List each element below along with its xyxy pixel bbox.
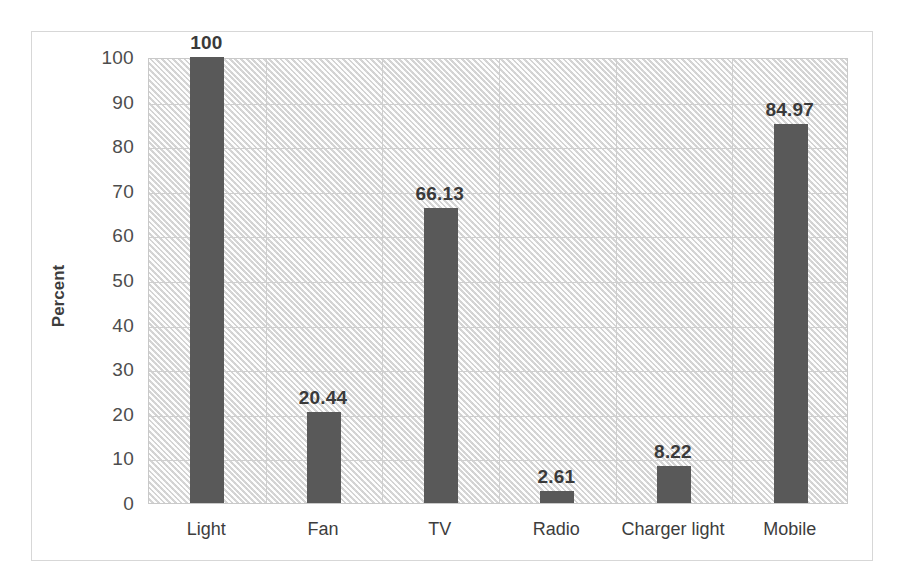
bar-value-label: 2.61 bbox=[537, 466, 575, 488]
y-axis-tick-label: 80 bbox=[74, 136, 134, 158]
horizontal-gridline bbox=[149, 237, 847, 238]
vertical-gridline bbox=[616, 59, 617, 503]
y-axis-tick-label: 40 bbox=[74, 315, 134, 337]
x-axis-tick-label: Mobile bbox=[763, 519, 816, 540]
chart-figure: Percent 0102030405060708090100 LightFanT… bbox=[31, 31, 873, 561]
y-axis-tick-label: 10 bbox=[74, 448, 134, 470]
x-axis-tick-label: Light bbox=[187, 519, 226, 540]
bar-value-label: 20.44 bbox=[299, 387, 348, 409]
horizontal-gridline bbox=[149, 193, 847, 194]
y-axis-tick-label: 70 bbox=[74, 181, 134, 203]
bar bbox=[190, 57, 224, 503]
y-axis-tick-label: 100 bbox=[74, 47, 134, 69]
y-axis-tick-label: 60 bbox=[74, 225, 134, 247]
y-axis-tick-label: 30 bbox=[74, 359, 134, 381]
bar bbox=[774, 124, 808, 503]
x-axis-tick-label: Charger light bbox=[621, 519, 724, 540]
y-axis-title: Percent bbox=[49, 236, 69, 356]
bar bbox=[540, 491, 574, 503]
horizontal-gridline bbox=[149, 371, 847, 372]
bar bbox=[307, 412, 341, 503]
horizontal-gridline bbox=[149, 104, 847, 105]
bar bbox=[657, 466, 691, 503]
x-axis-tick-label: TV bbox=[428, 519, 451, 540]
horizontal-gridline bbox=[149, 460, 847, 461]
y-axis-tick-label: 90 bbox=[74, 92, 134, 114]
horizontal-gridline bbox=[149, 282, 847, 283]
horizontal-gridline bbox=[149, 148, 847, 149]
bar-value-label: 100 bbox=[190, 32, 222, 54]
horizontal-gridline bbox=[149, 327, 847, 328]
y-axis-tick-label: 20 bbox=[74, 404, 134, 426]
bar-value-label: 66.13 bbox=[415, 183, 464, 205]
y-axis-tick-label: 0 bbox=[74, 493, 134, 515]
x-axis-tick-label: Radio bbox=[533, 519, 580, 540]
bar bbox=[424, 208, 458, 503]
plot-area bbox=[148, 58, 848, 504]
y-axis-tick-label: 50 bbox=[74, 270, 134, 292]
bar-value-label: 8.22 bbox=[654, 441, 692, 463]
bar-value-label: 84.97 bbox=[765, 99, 814, 121]
vertical-gridline bbox=[499, 59, 500, 503]
horizontal-gridline bbox=[149, 416, 847, 417]
vertical-gridline bbox=[382, 59, 383, 503]
vertical-gridline bbox=[266, 59, 267, 503]
x-axis-tick-label: Fan bbox=[307, 519, 338, 540]
vertical-gridline bbox=[732, 59, 733, 503]
